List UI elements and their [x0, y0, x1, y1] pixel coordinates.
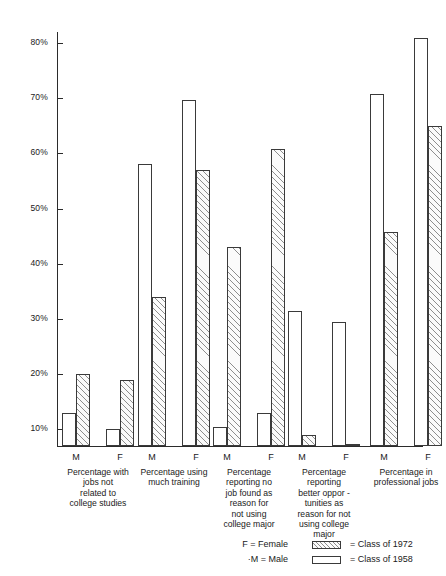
- y-axis-tick-label-wrap: 20%: [0, 369, 57, 379]
- legend-series-label: = Class of 1958: [350, 553, 413, 566]
- bar: [138, 164, 152, 446]
- chart-legend: F = Female= Class of 1972·M = Male= Clas…: [222, 538, 436, 572]
- subgroup-label-m: M: [364, 452, 404, 463]
- group-caption-line: Percentage in: [358, 467, 446, 477]
- bar: [120, 380, 134, 446]
- y-axis-tick-label-wrap: 40%: [0, 259, 57, 269]
- subgroup-label-f: F: [408, 452, 446, 463]
- bar: [346, 444, 360, 446]
- bar: [271, 149, 285, 446]
- plot-area: [58, 32, 423, 446]
- x-axis-line: [57, 446, 423, 447]
- y-axis-tick-label: 70%: [14, 93, 48, 102]
- y-axis-tick-label-wrap: 50%: [0, 204, 57, 214]
- legend-gender-key: F = Female: [222, 538, 288, 551]
- bar: [227, 247, 241, 446]
- bar: [302, 435, 316, 446]
- y-axis-tick-label: 30%: [14, 314, 48, 323]
- y-axis-tick-label-wrap: 80%: [0, 38, 57, 48]
- y-axis-tick-label: 60%: [14, 148, 48, 157]
- group-caption-line: professional jobs: [358, 477, 446, 487]
- legend-swatch-class-1958: [312, 556, 341, 564]
- group-caption: Percentage inprofessional jobs: [358, 467, 446, 488]
- group-caption-line: college studies: [50, 498, 146, 508]
- group-caption-line: tunities as: [276, 498, 372, 508]
- y-axis-tick-label-wrap: 10%: [0, 424, 57, 434]
- bar: [332, 322, 346, 446]
- bar: [370, 94, 384, 446]
- bar: [428, 126, 442, 446]
- bar: [152, 297, 166, 446]
- group-caption-line: using college: [276, 519, 372, 529]
- subgroup-label-m: M: [282, 452, 322, 463]
- subgroup-label-m: M: [132, 452, 172, 463]
- y-axis-tick-label: 10%: [14, 424, 48, 433]
- subgroup-label-m: M: [207, 452, 247, 463]
- bar: [288, 311, 302, 446]
- legend-swatch-class-1972: [312, 541, 341, 549]
- legend-row: F = Female= Class of 1972: [222, 538, 436, 552]
- y-axis-tick-label: 40%: [14, 259, 48, 268]
- group-caption-line: better oppor -: [276, 488, 372, 498]
- bar: [106, 429, 120, 446]
- bar: [257, 413, 271, 446]
- legend-row: ·M = Male= Class of 1958: [222, 553, 436, 567]
- y-axis-tick-label: 80%: [14, 38, 48, 47]
- subgroup-label-m: M: [56, 452, 96, 463]
- bar: [414, 38, 428, 446]
- bar: [182, 100, 196, 446]
- y-axis-tick-label: 20%: [14, 369, 48, 378]
- y-axis-tick-label-wrap: 70%: [0, 93, 57, 103]
- bar: [196, 170, 210, 446]
- group-caption-line: reason for not: [276, 509, 372, 519]
- legend-gender-key: ·M = Male: [222, 553, 288, 566]
- y-axis-tick-label: 50%: [14, 204, 48, 213]
- legend-series-label: = Class of 1972: [350, 538, 413, 551]
- y-axis-tick-label-wrap: 60%: [0, 148, 57, 158]
- bar: [62, 413, 76, 446]
- bar: [76, 374, 90, 446]
- y-axis-tick-label-wrap: 30%: [0, 314, 57, 324]
- bar: [213, 427, 227, 446]
- group-caption-line: related to: [50, 488, 146, 498]
- subgroup-label-f: F: [326, 452, 366, 463]
- bar: [384, 232, 398, 446]
